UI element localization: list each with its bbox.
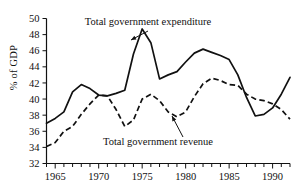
x-tick-label: 1965 bbox=[45, 171, 66, 182]
line-chart-plot: 32343638404244464850 1965197019751980198… bbox=[0, 0, 301, 192]
x-axis-ticks: 196519701975198019851990 bbox=[45, 164, 290, 182]
x-tick-label: 1990 bbox=[262, 171, 283, 182]
y-tick-label: 44 bbox=[29, 61, 40, 72]
y-tick-label: 38 bbox=[29, 110, 40, 121]
series-total-government-expenditure bbox=[47, 29, 291, 123]
y-tick-label: 48 bbox=[29, 29, 40, 40]
y-tick-label: 40 bbox=[29, 94, 40, 105]
y-tick-label: 42 bbox=[29, 78, 40, 89]
y-tick-label: 36 bbox=[29, 126, 40, 137]
y-tick-label: 46 bbox=[29, 45, 40, 56]
chart-figure: % of GDP 32343638404244464850 1965197019… bbox=[0, 0, 301, 192]
chart-annotations: Total government expenditureTotal govern… bbox=[85, 16, 214, 147]
y-tick-label: 32 bbox=[29, 158, 40, 169]
y-tick-label: 50 bbox=[29, 13, 40, 24]
x-tick-label: 1980 bbox=[175, 171, 196, 182]
y-tick-label: 34 bbox=[29, 142, 40, 153]
y-axis-ticks: 32343638404244464850 bbox=[29, 13, 47, 169]
x-tick-label: 1970 bbox=[88, 171, 109, 182]
x-tick-label: 1985 bbox=[219, 171, 240, 182]
revenue-label: Total government revenue bbox=[103, 136, 213, 147]
expenditure-label: Total government expenditure bbox=[85, 16, 212, 27]
x-tick-label: 1975 bbox=[132, 171, 153, 182]
